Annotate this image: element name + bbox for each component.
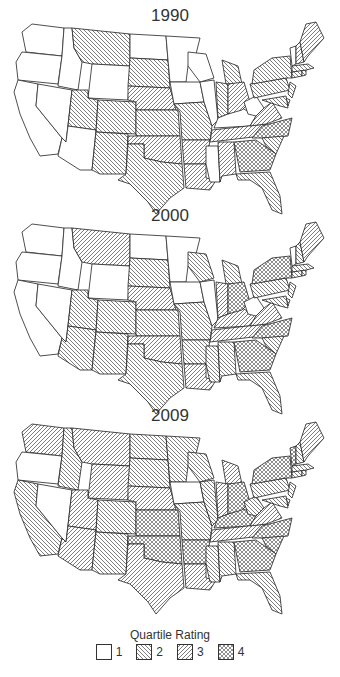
us-choropleth-map xyxy=(0,18,340,218)
state-washington xyxy=(22,424,64,456)
state-michigan xyxy=(222,260,242,284)
state-new-jersey xyxy=(288,482,296,498)
legend-item-3: 3 xyxy=(177,644,204,660)
state-rhode-island xyxy=(302,70,306,76)
state-new-mexico xyxy=(92,332,128,374)
legend-label: 3 xyxy=(197,645,204,659)
state-iowa xyxy=(170,482,204,504)
state-alabama xyxy=(218,542,236,582)
state-montana xyxy=(72,428,130,466)
state-iowa xyxy=(170,82,204,104)
state-massachusetts xyxy=(292,264,314,272)
state-new-jersey xyxy=(288,282,296,298)
state-colorado xyxy=(96,500,136,534)
legend-item-2: 2 xyxy=(136,644,163,660)
state-mississippi xyxy=(206,546,220,582)
legend-swatch-blank-icon xyxy=(96,644,112,660)
state-wyoming xyxy=(88,264,130,300)
state-montana xyxy=(72,28,130,66)
state-colorado xyxy=(96,100,136,134)
state-indiana xyxy=(216,82,228,118)
us-choropleth-map xyxy=(0,218,340,418)
state-oregon xyxy=(16,52,62,84)
state-wisconsin xyxy=(188,52,214,82)
legend-label: 1 xyxy=(116,645,123,659)
state-mississippi xyxy=(206,146,220,182)
state-kansas xyxy=(136,510,180,536)
state-kansas xyxy=(136,310,180,336)
state-new-mexico xyxy=(92,532,128,574)
state-florida xyxy=(236,572,282,614)
state-rhode-island xyxy=(302,470,306,476)
state-south-dakota xyxy=(128,258,170,288)
state-new-mexico xyxy=(92,132,128,174)
state-wisconsin xyxy=(188,252,214,282)
legend-swatch-crosshatch-icon xyxy=(218,644,234,660)
state-mississippi xyxy=(206,346,220,382)
legend-swatch-back-diagonal-icon xyxy=(136,644,152,660)
state-washington xyxy=(22,224,64,256)
state-massachusetts xyxy=(292,464,314,472)
state-maine xyxy=(300,22,324,62)
state-new-jersey xyxy=(288,82,296,98)
state-indiana xyxy=(216,282,228,318)
state-oregon xyxy=(16,252,62,284)
state-washington xyxy=(22,24,64,56)
state-north-dakota xyxy=(130,434,168,460)
legend: Quartile Rating 1 2 3 4 xyxy=(0,628,340,660)
us-choropleth-map xyxy=(0,418,340,618)
legend-label: 4 xyxy=(238,645,245,659)
legend-swatch-forward-diagonal-icon xyxy=(177,644,193,660)
legend-item-1: 1 xyxy=(96,644,123,660)
state-wyoming xyxy=(88,464,130,500)
state-kansas xyxy=(136,110,180,136)
state-alabama xyxy=(218,142,236,182)
state-south-dakota xyxy=(128,458,170,488)
legend-items: 1 2 3 4 xyxy=(0,644,340,660)
state-indiana xyxy=(216,482,228,518)
state-montana xyxy=(72,228,130,266)
state-iowa xyxy=(170,282,204,304)
state-wyoming xyxy=(88,64,130,100)
state-wisconsin xyxy=(188,452,214,482)
state-michigan xyxy=(222,60,242,84)
state-north-dakota xyxy=(130,234,168,260)
state-maine xyxy=(300,222,324,262)
state-north-dakota xyxy=(130,34,168,60)
state-michigan xyxy=(222,460,242,484)
legend-label: 2 xyxy=(156,645,163,659)
state-south-dakota xyxy=(128,58,170,88)
legend-item-4: 4 xyxy=(218,644,245,660)
state-colorado xyxy=(96,300,136,334)
state-rhode-island xyxy=(302,270,306,276)
state-oregon xyxy=(16,452,62,484)
state-maine xyxy=(300,422,324,462)
state-alabama xyxy=(218,342,236,382)
legend-title: Quartile Rating xyxy=(0,628,340,642)
state-massachusetts xyxy=(292,64,314,72)
